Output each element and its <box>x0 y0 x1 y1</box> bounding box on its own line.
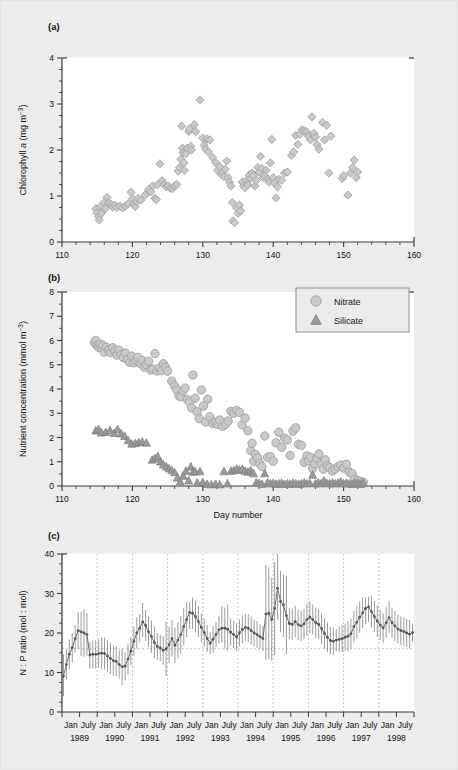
data-point-circle <box>204 395 212 403</box>
svg-text:160: 160 <box>407 250 421 260</box>
x-month-label: Jan <box>310 720 324 730</box>
x-month-label: July <box>398 720 414 730</box>
legend-label-nitrate: Nitrate <box>334 297 361 307</box>
panel-c-ylabel: N : P ratio (mol : mol) <box>18 591 28 676</box>
svg-text:150: 150 <box>337 494 351 504</box>
data-point-circle <box>269 457 277 465</box>
x-month-label: July <box>116 720 132 730</box>
panel-a-label: (a) <box>48 21 60 32</box>
x-year-label: 1991 <box>141 733 160 743</box>
x-year-label: 1989 <box>70 733 89 743</box>
x-year-label: 1993 <box>211 733 230 743</box>
svg-text:130: 130 <box>196 250 210 260</box>
svg-text:0: 0 <box>49 707 54 717</box>
svg-text:6: 6 <box>49 336 54 346</box>
svg-text:120: 120 <box>125 494 139 504</box>
x-month-label: July <box>81 720 97 730</box>
data-point-circle <box>297 441 305 449</box>
panel-a: (a) 01234110120130140150160Chlorophyll a… <box>0 0 458 262</box>
data-point-circle <box>342 460 350 468</box>
data-point-circle <box>189 371 197 379</box>
panel-b-xlabel: Day number <box>213 510 262 520</box>
data-point-circle <box>248 439 256 447</box>
data-point-circle <box>144 357 152 365</box>
x-year-label: 1990 <box>105 733 124 743</box>
x-month-label: July <box>222 720 238 730</box>
svg-text:0: 0 <box>49 481 54 491</box>
panel-a-plot: 01234110120130140150160Chlorophyll a (mg… <box>0 0 458 262</box>
svg-text:130: 130 <box>196 494 210 504</box>
svg-text:110: 110 <box>55 494 69 504</box>
x-month-label: Jan <box>205 720 219 730</box>
x-month-label: July <box>186 720 202 730</box>
svg-text:0: 0 <box>49 237 54 247</box>
x-month-label: Jan <box>240 720 254 730</box>
svg-text:140: 140 <box>266 494 280 504</box>
svg-text:150: 150 <box>337 250 351 260</box>
data-point-circle <box>197 386 205 394</box>
panel-c-label: (c) <box>48 530 60 541</box>
x-month-label: July <box>362 720 378 730</box>
panel-b: (b) 012345678110120130140150160Nutrient … <box>0 262 458 524</box>
svg-text:2: 2 <box>49 145 54 155</box>
panel-c-plot: 010203040JanJulyJanJulyJanJulyJanJulyJan… <box>0 524 458 770</box>
panel-a-ylabel: Chlorophyll a (mg m−3) <box>17 105 29 196</box>
svg-text:40: 40 <box>45 549 55 559</box>
x-month-label: July <box>292 720 308 730</box>
x-month-label: Jan <box>275 720 289 730</box>
svg-text:4: 4 <box>49 384 54 394</box>
svg-text:1: 1 <box>49 191 54 201</box>
x-year-label: 1998 <box>387 733 406 743</box>
panel-b-plot: 012345678110120130140150160Nutrient conc… <box>0 262 458 524</box>
data-point-circle <box>224 417 232 425</box>
data-point-circle <box>244 427 252 435</box>
x-month-label: Jan <box>64 720 78 730</box>
x-month-label: Jan <box>170 720 184 730</box>
data-point-circle <box>151 349 159 357</box>
x-year-label: 1997 <box>352 733 371 743</box>
svg-text:30: 30 <box>45 589 55 599</box>
data-point-circle <box>283 436 291 444</box>
panel-c: (c) 010203040JanJulyJanJulyJanJulyJanJul… <box>0 524 458 770</box>
data-point-circle <box>311 296 321 306</box>
x-year-label: 1994 <box>246 733 265 743</box>
panel-b-label: (b) <box>48 272 60 283</box>
x-month-ticks <box>62 712 414 717</box>
x-month-label: Jan <box>134 720 148 730</box>
svg-text:140: 140 <box>266 250 280 260</box>
data-point-circle <box>181 384 189 392</box>
x-month-label: July <box>151 720 167 730</box>
x-month-label: July <box>327 720 343 730</box>
svg-text:2: 2 <box>49 433 54 443</box>
svg-text:120: 120 <box>125 250 139 260</box>
x-year-label: 1992 <box>176 733 195 743</box>
data-point-circle <box>163 367 171 375</box>
data-point-circle <box>292 424 300 432</box>
x-year-label: 1995 <box>281 733 300 743</box>
svg-text:160: 160 <box>407 494 421 504</box>
data-point-circle <box>191 394 199 402</box>
svg-text:5: 5 <box>49 360 54 370</box>
data-point-circle <box>286 451 294 459</box>
legend-label-silicate: Silicate <box>334 316 363 326</box>
svg-text:1: 1 <box>49 457 54 467</box>
data-point-circle <box>261 432 269 440</box>
svg-text:3: 3 <box>49 408 54 418</box>
svg-text:20: 20 <box>45 628 55 638</box>
svg-text:4: 4 <box>49 53 54 63</box>
svg-text:110: 110 <box>55 250 69 260</box>
x-month-label: Jan <box>99 720 113 730</box>
svg-text:7: 7 <box>49 311 54 321</box>
x-month-label: Jan <box>346 720 360 730</box>
x-month-label: Jan <box>381 720 395 730</box>
x-month-label: July <box>257 720 273 730</box>
data-point-circle <box>241 414 249 422</box>
figure-container: (a) 01234110120130140150160Chlorophyll a… <box>0 0 458 770</box>
svg-text:8: 8 <box>49 287 54 297</box>
svg-text:10: 10 <box>45 668 55 678</box>
svg-text:3: 3 <box>49 99 54 109</box>
data-point-circle <box>277 443 285 451</box>
x-year-label: 1996 <box>317 733 336 743</box>
panel-b-ylabel: Nutrient concentration (mmol m−3) <box>17 321 29 457</box>
